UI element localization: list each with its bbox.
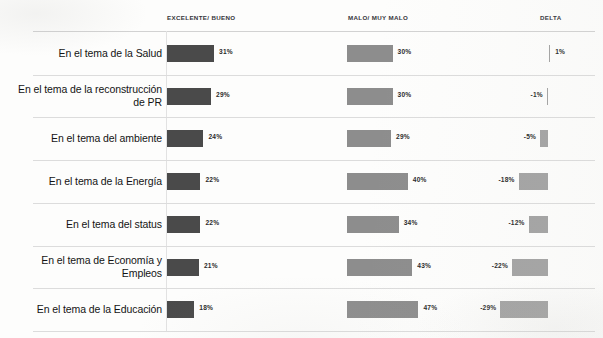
bar-value-excelente-bueno: 22% xyxy=(205,176,219,183)
row-category-label: En el tema del ambiente xyxy=(18,117,162,160)
bar-value-excelente-bueno: 21% xyxy=(204,262,218,269)
bar-excelente-bueno xyxy=(167,45,214,62)
bar-excelente-bueno xyxy=(167,130,203,147)
chart-row: En el tema de la Salud31%30%1% xyxy=(0,32,603,75)
chart-row: En el tema de Economía y Empleos21%43%-2… xyxy=(0,246,603,289)
bar-malo-muy-malo xyxy=(347,216,399,233)
chart-row: En el tema del status22%34%-12% xyxy=(0,203,603,246)
bar-excelente-bueno xyxy=(167,259,199,276)
row-separator xyxy=(33,331,595,332)
bar-delta xyxy=(500,301,548,318)
chart-row: En el tema de la Educación18%47%-29% xyxy=(0,288,603,331)
bar-delta xyxy=(547,88,549,105)
chart-row: En el tema del ambiente24%29%-5% xyxy=(0,117,603,160)
bar-malo-muy-malo xyxy=(347,88,393,105)
bar-value-excelente-bueno: 31% xyxy=(219,48,233,55)
bar-value-excelente-bueno: 22% xyxy=(205,219,219,226)
row-category-label: En el tema del status xyxy=(18,203,162,246)
bar-malo-muy-malo xyxy=(347,173,408,190)
bar-delta xyxy=(512,259,549,276)
comparison-bar-chart: EXCELENTE/ BUENO MALO/ MUY MALO DELTA En… xyxy=(0,0,603,338)
bar-value-delta: -22% xyxy=(490,262,508,269)
column-header-excelente-bueno: EXCELENTE/ BUENO xyxy=(167,14,236,21)
bar-excelente-bueno xyxy=(167,173,200,190)
bar-malo-muy-malo xyxy=(347,259,412,276)
column-header-delta: DELTA xyxy=(540,14,561,21)
bar-value-delta: -5% xyxy=(518,133,536,140)
bar-value-malo-muy-malo: 40% xyxy=(413,176,427,183)
row-category-label: En el tema de la Salud xyxy=(18,32,162,75)
chart-row: En el tema de la Energía22%40%-18% xyxy=(0,160,603,203)
column-header-malo-muy-malo: MALO/ MUY MALO xyxy=(348,14,408,21)
bar-value-malo-muy-malo: 30% xyxy=(398,48,412,55)
chart-column-headers: EXCELENTE/ BUENO MALO/ MUY MALO DELTA xyxy=(0,14,603,30)
bar-value-malo-muy-malo: 47% xyxy=(423,304,437,311)
bar-value-malo-muy-malo: 29% xyxy=(396,133,410,140)
bar-malo-muy-malo xyxy=(347,45,393,62)
bar-excelente-bueno xyxy=(167,216,200,233)
chart-row: En el tema de la reconstrucción de PR29%… xyxy=(0,75,603,118)
bar-value-delta: -1% xyxy=(525,91,543,98)
bar-value-excelente-bueno: 24% xyxy=(208,133,222,140)
row-category-label: En el tema de la Energía xyxy=(18,160,162,203)
bar-value-malo-muy-malo: 30% xyxy=(398,91,412,98)
row-category-label: En el tema de la Educación xyxy=(18,288,162,331)
bar-excelente-bueno xyxy=(167,88,211,105)
bar-malo-muy-malo xyxy=(347,130,391,147)
bar-value-delta: 1% xyxy=(555,48,565,55)
row-category-label: En el tema de la reconstrucción de PR xyxy=(18,75,162,118)
bar-excelente-bueno xyxy=(167,301,194,318)
bar-value-excelente-bueno: 18% xyxy=(199,304,213,311)
bar-value-delta: -12% xyxy=(507,219,525,226)
bar-value-delta: -29% xyxy=(478,304,496,311)
bar-malo-muy-malo xyxy=(347,301,418,318)
bar-delta xyxy=(540,130,548,147)
bar-delta xyxy=(549,45,551,62)
bar-value-delta: -18% xyxy=(497,176,515,183)
bar-value-malo-muy-malo: 34% xyxy=(404,219,418,226)
bar-value-excelente-bueno: 29% xyxy=(216,91,230,98)
bar-delta xyxy=(529,216,549,233)
row-category-label: En el tema de Economía y Empleos xyxy=(18,246,162,289)
bar-delta xyxy=(519,173,549,190)
bar-value-malo-muy-malo: 43% xyxy=(417,262,431,269)
